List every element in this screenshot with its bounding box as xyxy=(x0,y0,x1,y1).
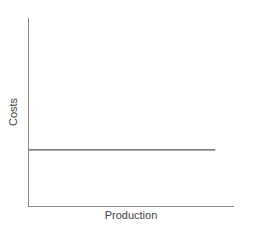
x-axis-label: Production xyxy=(105,209,158,221)
y-axis-label: Costs xyxy=(7,98,19,126)
chart-canvas xyxy=(0,0,255,229)
